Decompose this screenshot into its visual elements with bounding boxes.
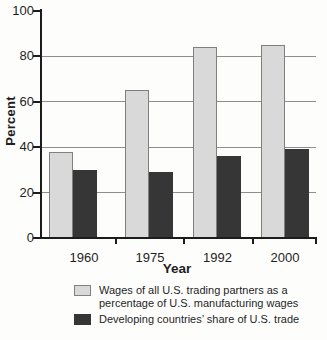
x-tick-3: [315, 239, 317, 244]
y-axis-line: [40, 9, 42, 239]
legend-item-trade: Developing countries’ share of U.S. trad…: [74, 313, 309, 326]
y-tick-100: [33, 10, 40, 12]
bar-trade-2000: [285, 149, 309, 238]
x-category-label-1975: 1975: [136, 250, 165, 265]
x-category-label-1992: 1992: [203, 250, 232, 265]
y-tick-20: [33, 192, 40, 194]
y-tick-label-0: 0: [0, 230, 34, 245]
y-tick-label-100: 100: [0, 3, 34, 18]
legend-swatch-wages-icon: [74, 285, 91, 296]
bar-wages-2000: [261, 45, 285, 238]
bar-trade-1960: [73, 170, 97, 238]
y-tick-40: [33, 146, 40, 148]
x-axis-line: [40, 237, 317, 239]
legend-label-wages: Wages of all U.S. trading partners as a …: [99, 284, 309, 310]
bar-wages-1960: [49, 152, 73, 238]
bar-trade-1992: [217, 156, 241, 238]
y-tick-label-80: 80: [0, 48, 34, 63]
x-category-label-1960: 1960: [70, 250, 99, 265]
legend: Wages of all U.S. trading partners as a …: [74, 284, 309, 326]
x-category-label-2000: 2000: [271, 250, 300, 265]
legend-label-trade: Developing countries’ share of U.S. trad…: [99, 313, 309, 326]
y-tick-80: [33, 55, 40, 57]
y-tick-label-20: 20: [0, 185, 34, 200]
x-axis-title: Year: [163, 261, 192, 276]
x-tick-0: [115, 239, 117, 244]
bar-chart-figure: 020406080100 1960197519922000 Percent Ye…: [0, 0, 327, 340]
y-axis-title: Percent: [3, 96, 18, 146]
bar-wages-1992: [193, 47, 217, 238]
y-tick-60: [33, 101, 40, 103]
bar-trade-1975: [149, 172, 173, 238]
legend-swatch-trade-icon: [74, 314, 91, 325]
y-tick-0: [33, 237, 40, 239]
legend-item-wages: Wages of all U.S. trading partners as a …: [74, 284, 309, 310]
x-tick-1: [183, 239, 185, 244]
x-tick-2: [252, 239, 254, 244]
bar-wages-1975: [125, 90, 149, 238]
